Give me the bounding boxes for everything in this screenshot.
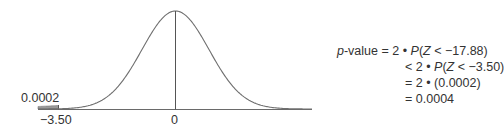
formula-line-4: = 0.0004 [405,92,454,106]
formula-line-3: = 2 • (0.0002) [405,76,481,90]
arg: < −3.50) [454,60,504,74]
multiplier: 2 • [392,44,410,58]
operator: = [381,44,388,58]
multiplier: 2 • [416,60,434,74]
result: 0.0004 [416,92,454,106]
operator: = [405,76,412,90]
formula-line-2: < 2 • P(Z < −3.50) [405,60,504,74]
tick-label-zero: 0 [171,113,178,127]
tick-label-minus-3-50: −3.50 [40,113,72,127]
p-symbol: p [337,44,344,58]
operator: = [405,92,412,106]
formula-line-1: p-value = 2 • P(Z < −17.88) [337,44,488,58]
arg: < −17.88) [431,44,488,58]
z-var: Z [423,44,431,58]
operator: < [405,60,412,74]
shaded-area-label: 0.0002 [21,91,59,105]
expression: 2 • (0.0002) [416,76,481,90]
prob-fn: P [411,44,419,58]
value-word: -value [344,44,378,58]
